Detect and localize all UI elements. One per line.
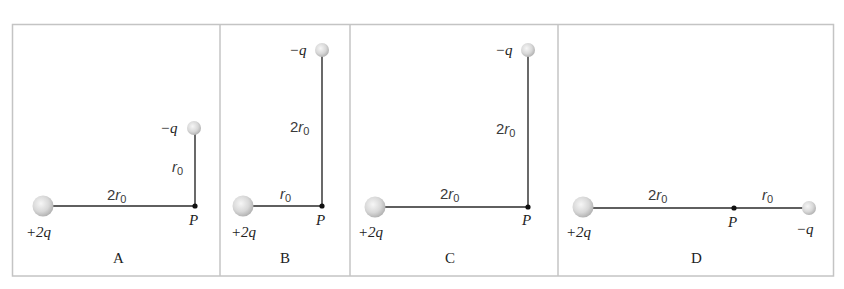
panel-label: B	[280, 250, 290, 266]
panel-c: 2r0 2r0 −q +2q P C	[358, 42, 535, 266]
panel-a: 2r0 r0 −q +2q P A	[26, 120, 201, 266]
charge-configurations-figure: 2r0 r0 −q +2q P A r0 2r0 −q +2q P B 2r0 …	[0, 0, 844, 289]
charge-label: +2q	[566, 224, 592, 240]
charge-label: −q	[796, 221, 814, 237]
point-label: P	[521, 212, 531, 228]
point-label: P	[188, 212, 198, 228]
panel-frames	[13, 25, 834, 277]
charge-minus-q-sphere	[802, 201, 816, 215]
charge-label: −q	[160, 120, 178, 136]
charge-label: +2q	[231, 224, 257, 240]
charge-minus-q-sphere	[521, 43, 535, 57]
distance-label: 2r0	[107, 186, 126, 205]
distance-label: r0	[280, 185, 291, 204]
panel-d: 2r0 r0 −q +2q P D	[566, 186, 816, 266]
charge-label: −q	[289, 42, 307, 58]
point-p-dot	[192, 203, 197, 208]
distance-label: 2r0	[648, 186, 667, 205]
distance-label: r0	[172, 158, 183, 177]
panel-label: A	[113, 250, 124, 266]
charge-minus-q-sphere	[315, 43, 329, 57]
point-label: P	[727, 214, 737, 230]
charge-plus-2q-sphere	[33, 196, 54, 217]
charge-plus-2q-sphere	[365, 197, 386, 218]
charge-label: +2q	[26, 224, 52, 240]
panel-b: r0 2r0 −q +2q P B	[231, 42, 329, 266]
charge-label: −q	[495, 42, 513, 58]
point-p-dot	[731, 205, 736, 210]
distance-label: 2r0	[440, 185, 459, 204]
distance-label: 2r0	[496, 120, 515, 139]
charge-plus-2q-sphere	[233, 196, 254, 217]
charge-label: +2q	[358, 224, 384, 240]
charge-minus-q-sphere	[187, 121, 201, 135]
distance-label: r0	[762, 186, 773, 205]
point-label: P	[315, 212, 325, 228]
charge-plus-2q-sphere	[573, 197, 594, 218]
panel-label: D	[691, 250, 702, 266]
distance-label: 2r0	[290, 118, 309, 137]
panel-label: C	[445, 250, 455, 266]
point-p-dot	[319, 203, 324, 208]
point-p-dot	[525, 204, 530, 209]
